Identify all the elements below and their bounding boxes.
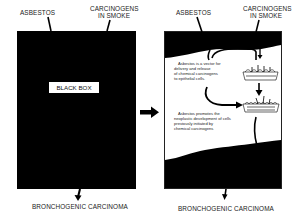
left-down-arrow-icon [75, 189, 82, 201]
curved-arrow-icon [206, 87, 243, 109]
asbestos-fiber-drop [208, 50, 210, 60]
left-asbestos-leader-line [48, 17, 51, 31]
diagram-graphics [0, 0, 299, 219]
transition-arrow-icon [140, 107, 159, 119]
tissue-region-band [165, 140, 281, 188]
right-down-arrow-icon [222, 189, 228, 200]
carcinogen-down-arrow-icon [258, 48, 263, 59]
neoplastic-cells-illustration [243, 96, 279, 112]
asbestos-fiber-path [212, 49, 256, 60]
left-carcinogens-leader-line [107, 20, 110, 31]
right-carcinogens-leader-line [256, 20, 259, 32]
airway-lumen-band [165, 32, 281, 58]
epithelial-cells-illustration [243, 65, 278, 80]
right-asbestos-leader-line [197, 17, 202, 32]
progression-down-arrow-icon [256, 83, 263, 96]
carcinoma-progression-line [255, 117, 257, 146]
